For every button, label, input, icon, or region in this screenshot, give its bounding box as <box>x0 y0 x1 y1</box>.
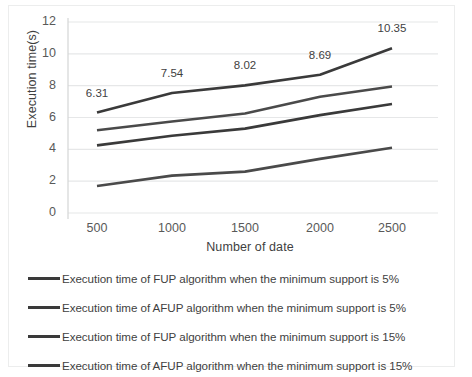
legend-line-icon <box>28 335 60 338</box>
data-point-label: 6.31 <box>72 87 122 99</box>
x-axis-tick-label: 500 <box>67 221 127 235</box>
y-axis-title: Execution time(s) <box>25 9 39 149</box>
legend-item: Execution time of AFUP algorithm when th… <box>28 293 455 322</box>
plot-svg <box>0 0 472 250</box>
x-axis-tick-label: 2000 <box>290 221 350 235</box>
x-axis-tick-label: 2500 <box>362 221 422 235</box>
line-chart-figure: 024681012 5001000150020002500 6.317.548.… <box>0 0 472 377</box>
data-point-label: 7.54 <box>147 67 197 79</box>
legend-item-label: Execution time of FUP algorithm when the… <box>62 330 405 343</box>
legend-item-label: Execution time of AFUP algorithm when th… <box>62 301 406 314</box>
chart-legend: Execution time of FUP algorithm when the… <box>8 258 455 377</box>
legend-line-icon <box>28 277 60 280</box>
series-line-3 <box>97 148 392 186</box>
data-point-label: 8.69 <box>295 49 345 61</box>
series-line-0 <box>97 48 392 112</box>
legend-line-icon <box>28 364 60 367</box>
x-axis-tick-label: 1000 <box>142 221 202 235</box>
data-point-label: 10.35 <box>367 22 417 34</box>
legend-item: Execution time of FUP algorithm when the… <box>28 264 455 293</box>
data-point-label: 8.02 <box>220 59 270 71</box>
legend-item: Execution time of AFUP algorithm when th… <box>28 351 455 377</box>
legend-line-icon <box>28 306 60 309</box>
x-axis-tick-label: 1500 <box>215 221 275 235</box>
y-axis-tick-label: 2 <box>24 173 56 187</box>
series-line-1 <box>97 86 392 130</box>
legend-item-label: Execution time of FUP algorithm when the… <box>62 272 399 285</box>
legend-item-label: Execution time of AFUP algorithm when th… <box>62 359 412 372</box>
y-axis-tick-label: 0 <box>24 205 56 219</box>
x-axis-title: Number of date <box>60 240 440 254</box>
legend-item: Execution time of FUP algorithm when the… <box>28 322 455 351</box>
plot-area: 024681012 5001000150020002500 6.317.548.… <box>0 0 472 250</box>
